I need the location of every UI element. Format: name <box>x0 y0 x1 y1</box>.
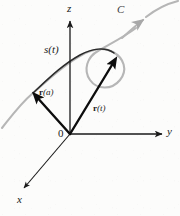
curve-c-label: C <box>117 4 124 15</box>
vector-r-of-a <box>35 95 70 134</box>
vectors-group <box>35 60 115 134</box>
curve-c-loop <box>87 28 136 88</box>
vector-function-arc-length-diagram: z y x 0 C s(t) r(a) r(t) <box>0 0 180 216</box>
x-axis-label: x <box>17 194 22 205</box>
curve-c-arrow-segment <box>122 20 143 38</box>
arc-length-label: s(t) <box>44 44 59 55</box>
vector-r-of-t-argument: (t) <box>97 103 106 113</box>
vector-r-of-a-argument: (a) <box>43 87 54 97</box>
vector-r-of-t-label: r(t) <box>93 104 106 113</box>
vector-r-of-a-label: r(a) <box>39 88 54 97</box>
curve-c-right-branch <box>146 1 178 17</box>
x-axis-line <box>24 134 70 188</box>
z-axis-label: z <box>67 3 71 14</box>
y-axis-label: y <box>167 126 172 137</box>
origin-label: 0 <box>58 128 64 139</box>
curve-c-gray <box>2 1 178 128</box>
vector-r-of-t <box>70 60 115 134</box>
diagram-canvas <box>0 0 180 216</box>
